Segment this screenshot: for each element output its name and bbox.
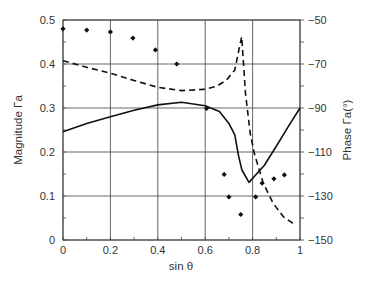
- grid-lines: [63, 20, 300, 240]
- axis-ticks: [63, 20, 304, 240]
- data-point-marker: [282, 172, 287, 177]
- x-tick-labels: 00.20.40.60.81: [60, 244, 303, 256]
- chart: 00.20.40.60.81 00.10.20.30.40.5 −150−130…: [0, 0, 365, 282]
- y-axis-title: Magnitude Γa: [12, 95, 24, 165]
- data-point-marker: [174, 61, 179, 66]
- y2-axis-title: Phase Γa(°): [341, 99, 353, 160]
- x-tick-label: 0: [60, 244, 66, 256]
- y-tick-label: 0.3: [40, 102, 55, 114]
- data-point-marker: [84, 28, 89, 33]
- y2-tick-label: −150: [308, 234, 333, 246]
- y2-tick-labels: −150−130−110−90−70−50: [308, 14, 333, 246]
- magnitude-solid-line: [63, 102, 300, 182]
- x-tick-label: 0.2: [103, 244, 118, 256]
- y2-tick-label: −50: [308, 14, 327, 26]
- y-tick-label: 0.5: [40, 14, 55, 26]
- x-axis-title: sin θ: [169, 260, 193, 272]
- plot-frame: [63, 20, 300, 240]
- x-tick-label: 0.8: [245, 244, 260, 256]
- data-point-marker: [271, 176, 276, 181]
- x-tick-label: 1: [297, 244, 303, 256]
- data-point-marker: [253, 194, 258, 199]
- x-tick-label: 0.6: [198, 244, 213, 256]
- data-point-marker: [259, 181, 264, 186]
- data-point-marker: [222, 172, 227, 177]
- y2-tick-label: −90: [308, 102, 327, 114]
- data-series: [60, 26, 300, 225]
- data-point-marker: [226, 194, 231, 199]
- data-point-marker: [130, 35, 135, 40]
- y-tick-label: 0.1: [40, 190, 55, 202]
- data-point-marker: [153, 47, 158, 52]
- y-tick-label: 0: [49, 234, 55, 246]
- y2-tick-label: −70: [308, 58, 327, 70]
- data-point-marker: [60, 26, 65, 31]
- y-tick-label: 0.2: [40, 146, 55, 158]
- y2-tick-label: −130: [308, 190, 333, 202]
- x-tick-label: 0.4: [150, 244, 165, 256]
- phase-dashed-line: [63, 37, 295, 225]
- data-point-marker: [108, 29, 113, 34]
- y2-tick-label: −110: [308, 146, 332, 158]
- y-tick-label: 0.4: [40, 58, 55, 70]
- data-point-marker: [238, 212, 243, 217]
- y-tick-labels: 00.10.20.30.40.5: [40, 14, 55, 246]
